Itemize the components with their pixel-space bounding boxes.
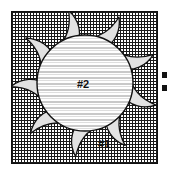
callout-label-hub: #2: [77, 79, 89, 90]
clipped-edge-marks: [162, 72, 170, 94]
edge-mark-lower: [162, 85, 167, 91]
figure-root: #2 #1: [0, 0, 170, 174]
callout-label-blade: #1: [98, 139, 110, 150]
edge-mark-upper: [162, 72, 167, 78]
